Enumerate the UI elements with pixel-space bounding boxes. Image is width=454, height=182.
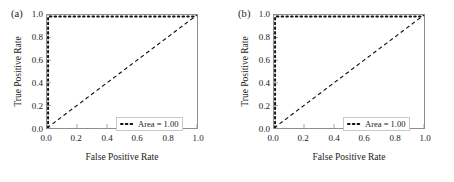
panel-b-ylabel: True Positive Rate xyxy=(240,14,254,129)
panel-b-legend: Area = 1.00 xyxy=(343,117,410,131)
panel-a-xtick-0: 0.0 xyxy=(33,134,59,143)
panel-b-xtick-4: 0.8 xyxy=(382,134,408,143)
panel-a-xtick-4: 0.8 xyxy=(155,134,181,143)
panel-a-plot-svg xyxy=(47,15,197,128)
panel-b-xtick-5: 1.0 xyxy=(412,134,438,143)
panel-b-ylabel-wrap: True Positive Rate xyxy=(240,129,254,182)
dotted-line-marker-icon xyxy=(120,120,134,128)
roc-figure: (a) 0.0 0.2 0.4 0.6 0.8 1.0 True Positiv… xyxy=(0,0,454,182)
panel-b: (b) 0.0 0.2 0.4 0.6 0.8 1.0 True Positiv… xyxy=(227,0,454,182)
panel-a-ylabel-wrap: True Positive Rate xyxy=(13,129,27,182)
panel-b-chance-line xyxy=(274,15,424,128)
dotted-line-marker-icon xyxy=(347,120,361,128)
panel-a-xtick-2: 0.4 xyxy=(94,134,120,143)
panel-b-xtick-row: 0.0 0.2 0.4 0.6 0.8 1.0 xyxy=(273,134,425,146)
panel-a-plot-area xyxy=(46,14,198,129)
panel-a-roc-curve xyxy=(48,17,196,128)
panel-a-chance-line xyxy=(47,15,197,128)
panel-b-legend-label: Area = 1.00 xyxy=(365,120,405,129)
panel-b-xlabel: False Positive Rate xyxy=(273,152,425,162)
panel-b-xtick-2: 0.4 xyxy=(321,134,347,143)
panel-a-xtick-1: 0.2 xyxy=(63,134,89,143)
panel-a-xtick-5: 1.0 xyxy=(185,134,211,143)
panel-a-ylabel: True Positive Rate xyxy=(13,14,27,129)
panel-b-plot-svg xyxy=(274,15,424,128)
panel-a-legend-label: Area = 1.00 xyxy=(138,120,178,129)
panel-b-plot-area xyxy=(273,14,425,129)
panel-b-xtick-1: 0.2 xyxy=(290,134,316,143)
panel-a-xtick-row: 0.0 0.2 0.4 0.6 0.8 1.0 xyxy=(46,134,198,146)
panel-a-legend: Area = 1.00 xyxy=(116,117,183,131)
panel-b-xtick-0: 0.0 xyxy=(260,134,286,143)
panel-a: (a) 0.0 0.2 0.4 0.6 0.8 1.0 True Positiv… xyxy=(0,0,227,182)
panel-b-roc-curve xyxy=(275,17,423,128)
panel-a-xlabel: False Positive Rate xyxy=(46,152,198,162)
panel-a-xtick-3: 0.6 xyxy=(124,134,150,143)
panel-b-xtick-3: 0.6 xyxy=(351,134,377,143)
